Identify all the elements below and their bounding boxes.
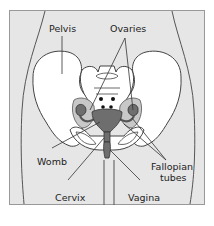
anatomy-illustration (0, 0, 214, 226)
label-womb: Womb (37, 156, 67, 167)
ovary-left (76, 104, 86, 115)
pelvis-diagram: Pelvis Ovaries Womb Fallopian tubes Cerv… (0, 0, 214, 226)
label-fallopian-line1: Fallopian (151, 161, 193, 172)
label-fallopian-line2: tubes (160, 172, 187, 183)
label-pelvis: Pelvis (49, 23, 76, 34)
label-ovaries: Ovaries (110, 23, 146, 34)
vagina (104, 142, 111, 158)
label-cervix: Cervix (55, 192, 85, 203)
label-vagina: Vagina (128, 192, 160, 203)
cervix (104, 132, 110, 142)
